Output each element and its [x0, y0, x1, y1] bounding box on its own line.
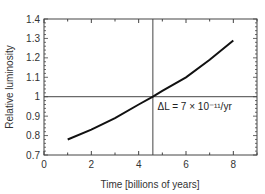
y-tick-label: 1.1 — [26, 72, 40, 83]
y-axis-label: Relative luminosity — [4, 45, 15, 128]
axis-ticks — [44, 19, 257, 155]
x-tick-label: 2 — [89, 159, 95, 170]
luminosity-chart: 02468 0.70.80.911.11.21.31.4 ΔL = 7 × 10… — [0, 0, 265, 194]
y-tick-label: 1.2 — [26, 52, 40, 63]
y-tick-label: 1 — [34, 91, 40, 102]
y-tick-label: 0.9 — [26, 111, 40, 122]
x-axis-label: Time [billions of years] — [100, 179, 199, 190]
y-tick-label: 1.4 — [26, 14, 40, 25]
y-tick-label: 0.7 — [26, 150, 40, 161]
x-tick-label: 4 — [136, 159, 142, 170]
x-tick-label: 0 — [41, 159, 47, 170]
luminosity-curve — [68, 40, 234, 139]
delta-l-annotation: ΔL = 7 × 10⁻¹¹/yr — [158, 101, 233, 112]
x-tick-label: 8 — [231, 159, 237, 170]
x-tick-label: 6 — [183, 159, 189, 170]
reference-lines — [44, 19, 257, 155]
plot-frame — [44, 19, 257, 155]
y-tick-label: 0.8 — [26, 130, 40, 141]
x-tick-labels: 02468 — [41, 159, 236, 170]
y-tick-label: 1.3 — [26, 33, 40, 44]
y-tick-labels: 0.70.80.911.11.21.31.4 — [26, 14, 40, 161]
